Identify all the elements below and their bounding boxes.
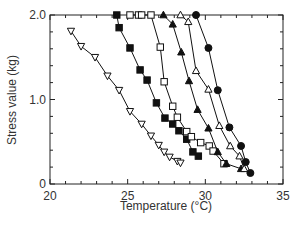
filled-square-marker-icon bbox=[144, 77, 150, 83]
y-tick-label: 0 bbox=[39, 177, 46, 191]
open-square-marker-icon bbox=[157, 44, 163, 50]
open-square-marker-icon bbox=[127, 12, 133, 18]
filled-circle-marker-icon bbox=[193, 12, 200, 19]
open-down-triangle-marker-icon bbox=[77, 43, 84, 50]
x-axis-label: Temperature (°C) bbox=[120, 199, 212, 213]
filled-circle-marker-icon bbox=[214, 87, 221, 94]
open-up-triangle-marker-icon bbox=[227, 142, 234, 149]
filled-square-marker-icon bbox=[116, 24, 122, 30]
x-tick-label: 20 bbox=[43, 189, 57, 203]
filled-up-triangle-marker-icon bbox=[185, 77, 192, 84]
filled-circle-marker-icon bbox=[247, 170, 254, 177]
open-down-triangle-marker-icon bbox=[91, 54, 98, 61]
series-open-down-triangle bbox=[67, 28, 184, 166]
open-square-marker-icon bbox=[197, 139, 203, 145]
open-up-triangle-marker-icon bbox=[216, 122, 223, 129]
filled-square-marker-icon bbox=[170, 121, 176, 127]
series-open-square bbox=[127, 12, 227, 167]
series-filled-circle bbox=[193, 12, 254, 177]
y-tick-label: 2.0 bbox=[29, 8, 46, 22]
plot-frame bbox=[50, 15, 283, 184]
filled-square-marker-icon bbox=[176, 128, 182, 134]
filled-square-marker-icon bbox=[127, 45, 133, 51]
open-square-marker-icon bbox=[161, 79, 167, 85]
open-down-triangle-marker-icon bbox=[67, 28, 74, 35]
stress-temperature-chart: 2025303501.02.0 Temperature (°C) Stress … bbox=[0, 0, 298, 225]
filled-circle-marker-icon bbox=[238, 142, 245, 149]
filled-up-triangle-marker-icon bbox=[194, 106, 201, 113]
filled-square-marker-icon bbox=[137, 67, 143, 73]
filled-circle-marker-icon bbox=[226, 124, 233, 131]
y-axis-label: Stress value (kg) bbox=[5, 55, 19, 145]
open-square-marker-icon bbox=[170, 103, 176, 109]
chart-canvas: 2025303501.02.0 Temperature (°C) Stress … bbox=[0, 0, 298, 225]
open-square-marker-icon bbox=[174, 114, 180, 120]
filled-square-marker-icon bbox=[153, 100, 159, 106]
open-square-marker-icon bbox=[188, 133, 194, 139]
filled-square-marker-icon bbox=[195, 153, 201, 159]
filled-circle-marker-icon bbox=[205, 44, 212, 51]
data-series bbox=[67, 11, 254, 176]
filled-square-marker-icon bbox=[114, 12, 120, 18]
open-up-triangle-marker-icon bbox=[192, 67, 199, 74]
open-down-triangle-marker-icon bbox=[166, 154, 173, 161]
series-line bbox=[71, 31, 181, 163]
y-tick-label: 1.0 bbox=[29, 93, 46, 107]
open-down-triangle-marker-icon bbox=[116, 87, 123, 94]
x-tick-label: 35 bbox=[276, 189, 290, 203]
open-square-marker-icon bbox=[148, 12, 154, 18]
open-up-triangle-marker-icon bbox=[205, 86, 212, 93]
filled-circle-marker-icon bbox=[242, 159, 249, 166]
filled-square-marker-icon bbox=[162, 115, 168, 121]
open-square-marker-icon bbox=[138, 12, 144, 18]
filled-up-triangle-marker-icon bbox=[205, 124, 212, 131]
filled-up-triangle-marker-icon bbox=[178, 48, 185, 55]
